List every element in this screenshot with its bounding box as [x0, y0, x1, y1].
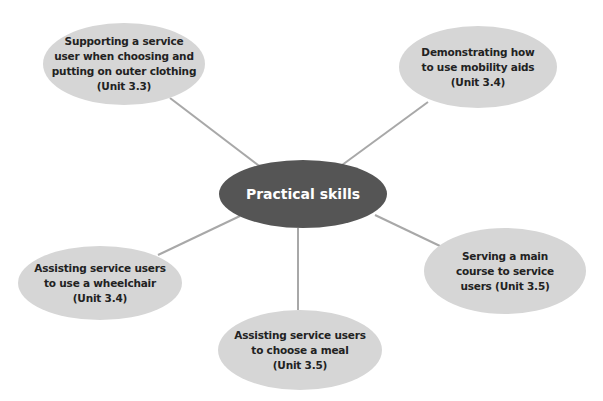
node-line: (Unit 3.4): [34, 291, 165, 306]
node-line: Assisting service users: [34, 261, 165, 276]
center-node-label: Practical skills: [219, 160, 387, 228]
node-line: to choose a meal: [234, 343, 365, 358]
node-line: putting on outer clothing: [52, 64, 196, 79]
node-line: to use mobility aids: [421, 60, 534, 75]
node-line: (Unit 3.3): [52, 79, 196, 94]
node-line: Supporting a service: [52, 34, 196, 49]
node-line: to use a wheelchair: [34, 276, 165, 291]
node-line: Demonstrating how: [421, 45, 534, 60]
connector-outer-clothing: [170, 98, 262, 168]
connector-mobility-aids: [338, 102, 428, 168]
node-choose-meal: Assisting service users to choose a meal…: [218, 310, 382, 390]
node-line: users (Unit 3.5): [456, 279, 554, 294]
node-line: course to service: [456, 264, 554, 279]
node-mobility-aids: Demonstrating how to use mobility aids (…: [399, 27, 557, 107]
node-line: (Unit 3.5): [234, 358, 365, 373]
node-line: (Unit 3.4): [421, 75, 534, 90]
node-line: Serving a main: [456, 249, 554, 264]
node-line: user when choosing and: [52, 49, 196, 64]
node-main-course: Serving a main course to service users (…: [424, 228, 586, 314]
mind-map-diagram: Practical skills Supporting a service us…: [0, 0, 603, 401]
node-line: Assisting service users: [234, 328, 365, 343]
node-outer-clothing: Supporting a service user when choosing …: [43, 24, 205, 104]
node-wheelchair: Assisting service users to use a wheelch…: [18, 246, 182, 320]
